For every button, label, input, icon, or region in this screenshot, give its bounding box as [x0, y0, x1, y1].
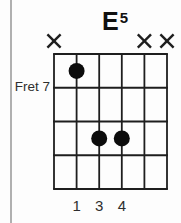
finger-dot: [69, 63, 85, 79]
chord-grid: 134: [0, 0, 181, 223]
finger-dot: [114, 130, 130, 146]
finger-dot: [91, 130, 107, 146]
finger-number: 1: [72, 197, 80, 214]
chord-diagram-page: E5 Fret 7 134: [0, 0, 181, 223]
finger-number: 4: [118, 197, 126, 214]
finger-number: 3: [95, 197, 103, 214]
